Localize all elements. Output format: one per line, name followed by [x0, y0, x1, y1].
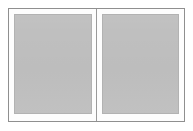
page-pane-left[interactable]: Left page — [9, 9, 97, 121]
page-pane-right[interactable]: Right page — [97, 9, 185, 121]
gutter-divider — [96, 9, 97, 121]
page-right-label: Right page — [102, 14, 103, 15]
document-canvas: Left page Right page Two-Page Spread Pla… — [0, 0, 193, 131]
page-block-right[interactable]: Right page — [102, 14, 180, 114]
page-block-left[interactable]: Left page — [14, 14, 92, 114]
spread-frame: Left page Right page — [8, 8, 185, 122]
page-left-label: Left page — [14, 14, 15, 15]
spread-inner: Left page Right page — [9, 9, 184, 121]
